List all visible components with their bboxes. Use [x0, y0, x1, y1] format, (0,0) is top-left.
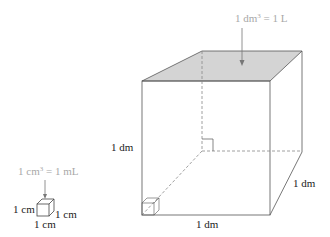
small-cube-annotation: 1 cm3 = 1 mL — [18, 165, 79, 177]
small-cube-depth-label: 1 cm — [55, 208, 77, 220]
volume-diagram: 1 dm3 = 1 L 1 dm 1 dm 1 dm 1 cm3 = 1 mL … — [0, 0, 330, 237]
arrowhead-icon — [43, 194, 47, 199]
small-cube-height-label: 1 cm — [13, 203, 35, 215]
large-cube-height-label: 1 dm — [111, 141, 134, 153]
large-cube-hidden-depth-edge — [142, 151, 202, 215]
large-cube-front-face — [142, 81, 270, 215]
small-cube — [37, 199, 54, 216]
right-angle-marker — [202, 139, 213, 151]
large-cube-annotation: 1 dm3 = 1 L — [235, 12, 288, 24]
large-cube-depth-label: 1 dm — [293, 177, 316, 189]
large-cube-width-label: 1 dm — [196, 218, 219, 230]
large-cube-top-face — [142, 51, 302, 81]
small-cube-width-label: 1 cm — [34, 218, 56, 230]
